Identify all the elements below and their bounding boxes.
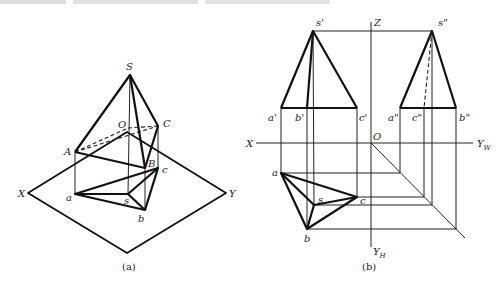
label-c-prime: c' — [359, 112, 367, 123]
label-B: B — [147, 158, 155, 169]
figure-a: S O C A B c a s b X Y (a) — [17, 61, 237, 272]
figure-b: s' Z s" a' b' c' a" c" b" X O YW a s c b… — [245, 17, 492, 272]
label-b: b — [138, 213, 144, 224]
label-s-prime: s' — [316, 17, 324, 28]
projection-diagram: S O C A B c a s b X Y (a) — [0, 0, 503, 295]
label-c-double-prime: c" — [412, 112, 422, 123]
label-a: a — [272, 167, 278, 178]
label-X: X — [17, 188, 26, 199]
label-c: c — [162, 164, 168, 175]
label-c: c — [360, 195, 366, 206]
label-Yw: YW — [477, 138, 492, 152]
label-O: O — [373, 131, 381, 142]
label-b-double-prime: b" — [459, 112, 470, 123]
label-s: s — [124, 195, 129, 206]
label-Y: Y — [229, 188, 237, 199]
label-a-double-prime: a" — [388, 112, 399, 123]
diagonal-45 — [371, 143, 465, 238]
label-b: b — [304, 233, 310, 244]
label-YH: YH — [373, 246, 387, 260]
label-X: X — [245, 138, 254, 149]
label-b-prime: b' — [295, 112, 304, 123]
label-C: C — [163, 118, 171, 129]
label-S: S — [126, 61, 133, 72]
label-Z: Z — [373, 17, 382, 28]
caption-b: (b) — [362, 261, 376, 272]
label-O: O — [118, 119, 126, 130]
label-a-prime: a' — [268, 112, 277, 123]
caption-a: (a) — [122, 261, 136, 272]
label-A: A — [63, 146, 71, 157]
label-s-double-prime: s" — [438, 17, 448, 28]
label-s: s — [318, 194, 323, 205]
label-a: a — [66, 192, 72, 203]
horizontal-plane — [28, 132, 226, 253]
